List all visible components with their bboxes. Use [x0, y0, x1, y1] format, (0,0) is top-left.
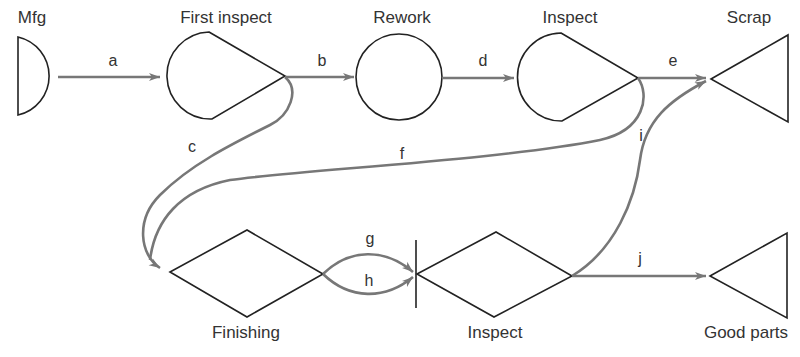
inspect-top-label: Inspect: [543, 8, 598, 28]
rework-node: [356, 34, 442, 120]
flow-g-label: g: [366, 230, 375, 248]
mfg-label: Mfg: [18, 8, 46, 28]
inspect-top-node: [517, 33, 638, 121]
flow-f-label: f: [400, 145, 404, 163]
flow-i-label: i: [639, 127, 643, 145]
flow-i: [572, 81, 706, 276]
mfg-node: [18, 37, 49, 115]
scrap-label: Scrap: [727, 8, 771, 28]
good-parts-label: Good parts: [704, 323, 788, 343]
finishing-node: [170, 230, 323, 317]
flow-c: [143, 77, 292, 268]
flow-a-label: a: [109, 52, 118, 70]
inspect-bottom-label: Inspect: [468, 323, 523, 343]
first-inspect-label: First inspect: [180, 8, 272, 28]
flow-b-label: b: [318, 52, 327, 70]
flow-diagram: [0, 0, 800, 357]
flow-j-label: j: [638, 250, 642, 268]
rework-label: Rework: [373, 8, 431, 28]
flow-h-label: h: [365, 272, 374, 290]
inspect-bottom-node: [417, 232, 572, 317]
flow-e-label: e: [669, 52, 678, 70]
first-inspect-node: [167, 32, 285, 119]
good-parts-node: [710, 233, 787, 318]
flow-f: [150, 78, 644, 260]
flow-d-label: d: [479, 52, 488, 70]
scrap-node: [711, 35, 788, 122]
flow-c-label: c: [188, 138, 196, 156]
finishing-label: Finishing: [212, 323, 280, 343]
